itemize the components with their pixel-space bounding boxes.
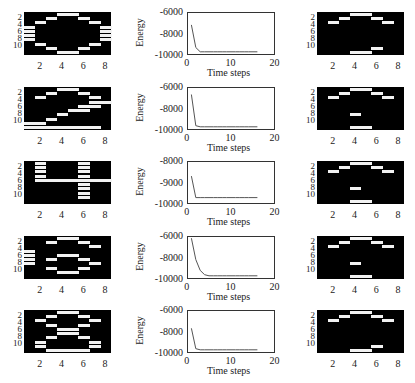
pixel-on — [371, 345, 382, 348]
pixel-on — [371, 315, 382, 318]
x-tick: 4 — [352, 359, 357, 369]
pixel-on — [382, 319, 393, 322]
recalled-pattern-image — [317, 310, 404, 353]
energy-y-tick: -6000 — [147, 305, 183, 315]
pixel-on — [350, 349, 361, 352]
energy-xlabel: Time steps — [207, 365, 250, 376]
pixel-on — [328, 319, 339, 322]
pixel-on — [350, 311, 361, 314]
x-tick: 2 — [330, 359, 335, 369]
energy-y-tick: -8000 — [147, 327, 183, 337]
y-tick-labels: 246810 — [301, 312, 315, 347]
y-tick: 10 — [301, 340, 315, 347]
pixel-on — [339, 315, 350, 318]
energy-y-tick: -10000 — [147, 348, 183, 358]
pixel-on — [361, 311, 372, 314]
pixel-on — [361, 349, 372, 352]
energy-x-tick: 0 — [184, 356, 189, 366]
energy-x-tick: 20 — [270, 356, 280, 366]
x-tick: 6 — [374, 359, 379, 369]
x-tick: 8 — [396, 359, 401, 369]
energy-ylabel: Energy — [134, 316, 145, 345]
